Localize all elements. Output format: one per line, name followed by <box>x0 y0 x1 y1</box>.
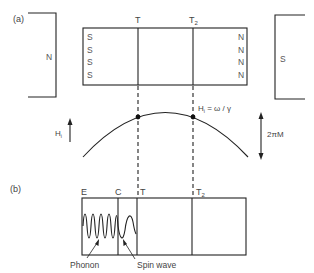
field-axis-label: Hi <box>55 129 62 139</box>
panel-a-label: (a) <box>13 14 24 24</box>
spin-wave <box>118 216 136 238</box>
arrow-down-icon <box>259 153 264 160</box>
sample-pole-n-2: N <box>238 45 244 55</box>
turning-point-t2 <box>191 115 196 120</box>
sample-pole-s-1: S <box>87 32 93 42</box>
turning-point-t <box>136 115 141 120</box>
marker-e: E <box>81 187 87 197</box>
phonon-label: Phonon <box>70 260 100 270</box>
marker-t-a: T <box>135 15 141 25</box>
marker-c: C <box>115 187 122 197</box>
marker-t2-a: T2 <box>189 15 199 26</box>
spin-wave-pointer <box>125 243 135 259</box>
sample-pole-n-3: N <box>238 57 244 67</box>
phonon-pointer <box>87 243 97 258</box>
spin-wave-label: Spin wave <box>137 260 176 270</box>
arrow-up-icon <box>259 112 264 119</box>
right-magnet-pole: S <box>280 54 286 64</box>
sample-rod-a <box>83 28 247 85</box>
phonon-wave <box>83 214 118 238</box>
left-magnet-pole: N <box>46 52 52 62</box>
marker-t-b: T <box>140 187 146 197</box>
panel-b-label: (b) <box>10 184 21 194</box>
sample-pole-s-4: S <box>87 70 93 80</box>
internal-field-curve <box>83 113 248 158</box>
arrow-up-icon <box>68 118 73 125</box>
sample-pole-s-3: S <box>87 57 93 67</box>
sample-pole-s-2: S <box>87 45 93 55</box>
magnetostatic-diagram: (a) N S T T2 S S S S N N N N Hi = ω / γ … <box>0 0 314 273</box>
resonance-condition-label: Hi = ω / γ <box>198 104 231 114</box>
sample-pole-n-1: N <box>238 32 244 42</box>
magnetization-range-label: 2πM <box>267 130 284 139</box>
marker-t2-b: T2 <box>196 187 206 198</box>
sample-pole-n-4: N <box>238 70 244 80</box>
